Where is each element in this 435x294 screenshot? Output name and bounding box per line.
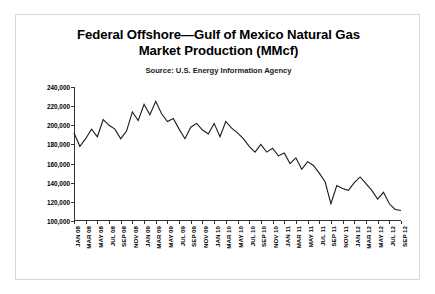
x-axis-tick xyxy=(261,221,262,224)
x-axis-tick-label: JUL 12 xyxy=(388,226,395,246)
x-axis-tick-label: MAY 08 xyxy=(96,226,103,248)
y-axis-tick-label: 100,000 xyxy=(47,218,70,225)
x-axis-tick-label: JAN 09 xyxy=(143,226,150,247)
x-axis-tick xyxy=(132,221,133,224)
chart-title-line-2: Market Production (MMcf) xyxy=(16,43,421,59)
x-axis-tick-label-wrap: SEP 12 xyxy=(404,205,411,226)
y-axis-tick-label: 120,000 xyxy=(47,198,70,205)
x-axis-tick-label: JAN 11 xyxy=(283,226,290,247)
y-axis-tick-label: 180,000 xyxy=(47,141,70,148)
x-axis-tick-label: JAN 12 xyxy=(353,226,360,247)
x-axis-tick xyxy=(378,221,379,224)
series-polyline xyxy=(74,101,401,210)
y-axis-tick-label: 200,000 xyxy=(47,122,70,129)
x-axis-tick xyxy=(308,221,309,224)
x-axis-tick xyxy=(366,221,367,224)
x-axis-tick-label: NOV 09 xyxy=(201,226,208,248)
x-axis-tick-label: MAY 09 xyxy=(166,226,173,248)
x-axis-tick xyxy=(202,221,203,224)
x-axis-tick xyxy=(296,221,297,224)
x-axis-tick-label: JUL 11 xyxy=(318,226,325,246)
x-axis-tick-label: SEP 09 xyxy=(190,226,197,247)
x-axis-tick-label: NOV 10 xyxy=(272,226,279,248)
series-line-chart xyxy=(74,87,401,221)
x-axis-tick-label: MAR 12 xyxy=(365,226,372,249)
x-axis-tick-label: JAN 08 xyxy=(73,226,80,247)
x-axis-tick-label: NOV 11 xyxy=(342,226,349,248)
x-axis-tick xyxy=(156,221,157,224)
x-axis-tick xyxy=(121,221,122,224)
x-axis-tick xyxy=(74,221,75,224)
x-axis-tick xyxy=(144,221,145,224)
x-axis-tick xyxy=(343,221,344,224)
x-axis-tick-label: MAR 08 xyxy=(85,226,92,249)
x-axis-tick xyxy=(214,221,215,224)
x-axis-tick xyxy=(331,221,332,224)
y-axis-tick-label: 160,000 xyxy=(47,160,70,167)
x-axis-tick-label: MAR 11 xyxy=(295,226,302,248)
x-axis-tick-label: NOV 08 xyxy=(131,226,138,248)
x-axis-tick-label: JAN 10 xyxy=(213,226,220,247)
y-axis-tick-label: 140,000 xyxy=(47,179,70,186)
x-axis-tick-label: MAY 11 xyxy=(307,226,314,247)
x-axis-tick xyxy=(354,221,355,224)
chart-figure: Federal Offshore—Gulf of Mexico Natural … xyxy=(15,14,420,280)
x-axis-tick xyxy=(249,221,250,224)
x-axis-tick xyxy=(238,221,239,224)
y-axis-tick-label: 220,000 xyxy=(47,103,70,110)
x-axis-tick xyxy=(226,221,227,224)
x-axis-tick xyxy=(401,221,402,224)
x-axis-tick-label: JUL 10 xyxy=(248,226,255,246)
x-axis-tick-label: JUL 08 xyxy=(108,226,115,246)
x-axis-tick-label: MAR 09 xyxy=(155,226,162,249)
x-axis-tick-label: SEP 12 xyxy=(400,226,407,247)
plot-area: 100,000120,000140,000160,000180,000200,0… xyxy=(74,87,401,221)
y-axis-tick-label: 240,000 xyxy=(47,84,70,91)
x-axis-tick-label: MAR 10 xyxy=(225,226,232,249)
x-axis-tick-label: MAY 12 xyxy=(377,226,384,248)
x-axis-tick-label: SEP 08 xyxy=(120,226,127,247)
x-axis-tick xyxy=(179,221,180,224)
x-axis-tick xyxy=(284,221,285,224)
x-axis-tick xyxy=(109,221,110,224)
chart-title: Federal Offshore—Gulf of Mexico Natural … xyxy=(16,27,421,59)
chart-source-note: Source: U.S. Energy Information Agency xyxy=(16,66,421,75)
x-axis-tick xyxy=(319,221,320,224)
x-axis-tick-label: SEP 10 xyxy=(260,226,267,247)
x-axis-tick-label: SEP 11 xyxy=(330,226,337,247)
x-axis-tick xyxy=(97,221,98,224)
x-axis-tick-label: MAY 10 xyxy=(237,226,244,248)
x-axis-tick xyxy=(191,221,192,224)
chart-title-line-1: Federal Offshore—Gulf of Mexico Natural … xyxy=(16,27,421,43)
x-axis-tick-label: JUL 09 xyxy=(178,226,185,246)
x-axis-tick xyxy=(86,221,87,224)
x-axis-tick xyxy=(167,221,168,224)
x-axis-tick xyxy=(273,221,274,224)
x-axis-tick xyxy=(389,221,390,224)
